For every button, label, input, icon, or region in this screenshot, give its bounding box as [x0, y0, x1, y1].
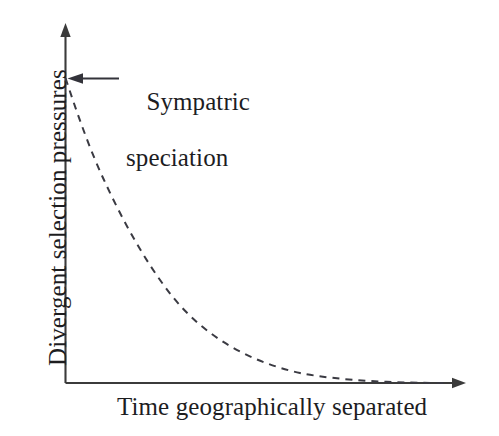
y-axis-arrowhead — [60, 23, 70, 37]
annotation-line-1: Sympatric — [146, 88, 250, 115]
x-axis-arrowhead — [452, 378, 466, 388]
figure-container: Divergent selection pressures Time geogr… — [0, 0, 499, 436]
y-axis-label: Divergent selection pressures — [44, 69, 72, 366]
annotation-label: Sympatric speciation — [121, 60, 250, 228]
annotation-line-2: speciation — [121, 144, 250, 172]
x-axis-label: Time geographically separated — [117, 393, 427, 421]
